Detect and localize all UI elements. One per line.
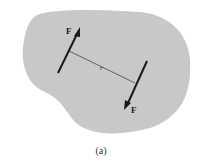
rigid-body-shape (23, 10, 190, 133)
distance-label: r (100, 64, 103, 72)
figure-caption: (a) (0, 145, 202, 156)
couple-diagram: F F r (0, 0, 202, 164)
force-label-top: F (66, 26, 72, 36)
force-label-bottom: F (131, 105, 137, 115)
